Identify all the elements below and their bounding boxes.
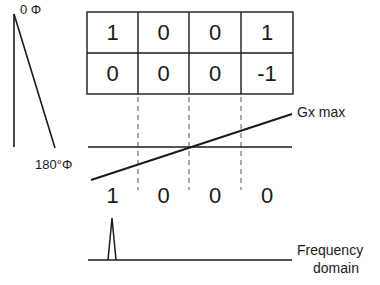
frequency-plot [88, 218, 292, 260]
matrix-cell-r2c4: -1 [241, 63, 293, 85]
gradient-max-label: Gx max [297, 105, 345, 119]
matrix-cell-r1c1: 1 [87, 22, 138, 44]
frequency-label-line2: domain [313, 261, 359, 275]
frequency-peak [108, 218, 116, 260]
phase-axis-diagonal-line [14, 14, 55, 148]
result-value-4: 0 [241, 185, 293, 207]
frequency-label-line1: Frequency [297, 243, 363, 257]
matrix-cell-r2c1: 0 [87, 63, 138, 85]
matrix-cell-r2c2: 0 [138, 63, 189, 85]
result-value-1: 1 [87, 185, 138, 207]
gradient-plot [88, 114, 292, 180]
matrix-cell-r1c4: 1 [241, 22, 293, 44]
matrix-cell-r2c3: 0 [189, 63, 241, 85]
result-value-2: 0 [138, 185, 189, 207]
phase-zero-label: 0 Φ [20, 3, 41, 16]
dashed-guides [138, 97, 241, 190]
matrix-cell-r1c2: 0 [138, 22, 189, 44]
result-value-3: 0 [189, 185, 241, 207]
phase-180-label: 180°Φ [35, 158, 72, 171]
phase-axis [14, 14, 55, 148]
matrix-cell-r1c3: 0 [189, 22, 241, 44]
